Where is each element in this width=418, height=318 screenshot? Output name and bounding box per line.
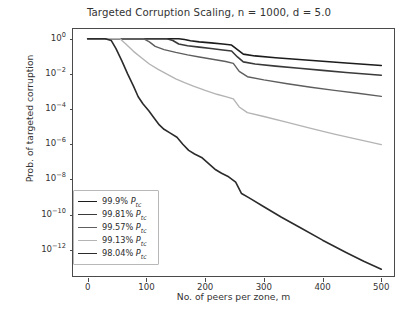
x-axis-tick-mark	[381, 278, 382, 282]
y-axis-tick-label: 10−12	[41, 245, 66, 254]
legend-item-label: 99.81% Ptc	[102, 210, 147, 218]
y-axis-tick-label: 10−10	[41, 209, 66, 218]
y-axis-tick-mark	[70, 179, 74, 180]
y-axis-tick-labels: 10010−210−410−610−810−1010−12	[8, 28, 66, 277]
page-title: Targeted Corruption Scaling, n = 1000, d…	[0, 7, 418, 18]
legend-item-label: 99.13% Ptc	[102, 236, 147, 244]
x-axis-tick-mark	[264, 278, 265, 282]
y-axis-tick-mark	[70, 109, 74, 110]
y-axis-tick-mark	[70, 39, 74, 40]
series-line	[88, 39, 382, 76]
legend-color-swatch	[78, 240, 97, 241]
legend-item[interactable]: 99.9% Ptc	[78, 195, 153, 208]
x-axis-label: No. of peers per zone, m	[72, 291, 395, 302]
y-axis-tick-label: 10−6	[45, 139, 66, 148]
x-axis-tick-mark	[205, 278, 206, 282]
y-axis-label: Prob. of targeted corruption	[24, 24, 35, 214]
legend-item[interactable]: 99.81% Ptc	[78, 208, 153, 221]
legend-color-swatch	[78, 227, 97, 228]
legend-item-label: 99.9% Ptc	[102, 197, 141, 205]
x-axis-tick-mark	[146, 278, 147, 282]
chart-figure: Targeted Corruption Scaling, n = 1000, d…	[0, 0, 418, 318]
series-line	[88, 39, 382, 66]
legend-color-swatch	[78, 253, 97, 254]
y-axis-tick-label: 10−4	[45, 104, 66, 113]
legend-item[interactable]: 98.04% Ptc	[78, 247, 153, 260]
y-axis-tick-label: 10−2	[45, 69, 66, 78]
x-axis-tick-mark	[323, 278, 324, 282]
legend-color-swatch	[78, 214, 97, 215]
y-axis-tick-mark	[70, 144, 74, 145]
legend-item-label: 99.57% Ptc	[102, 223, 147, 231]
y-axis-tick-label: 10−8	[45, 174, 66, 183]
x-axis-tick-mark	[88, 278, 89, 282]
legend-color-swatch	[78, 201, 97, 202]
y-axis-tick-mark	[70, 74, 74, 75]
y-axis-tick-label: 100	[51, 33, 66, 42]
legend-item-label: 98.04% Ptc	[102, 249, 147, 257]
legend-item[interactable]: 99.13% Ptc	[78, 234, 153, 247]
legend: 99.9% Ptc99.81% Ptc99.57% Ptc99.13% Ptc9…	[73, 190, 159, 265]
legend-item[interactable]: 99.57% Ptc	[78, 221, 153, 234]
